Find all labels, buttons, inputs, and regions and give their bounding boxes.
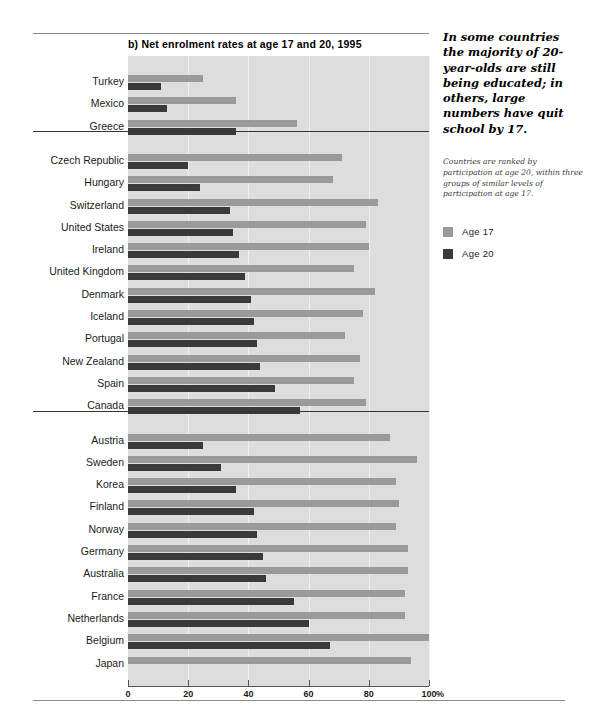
x-axis-unit-label: % <box>436 689 444 699</box>
bar-age-17 <box>128 120 297 127</box>
bar-row: Germany <box>33 542 429 564</box>
x-axis-line <box>128 686 429 687</box>
country-label: Finland <box>0 500 124 512</box>
legend-swatch-icon-age-20 <box>443 249 453 259</box>
bar-age-17 <box>128 478 396 485</box>
country-label: Czech Republic <box>0 154 124 166</box>
bar-age-20 <box>128 162 188 169</box>
bar-row: Australia <box>33 564 429 586</box>
bar-age-20 <box>128 575 266 582</box>
bar-age-17 <box>128 634 429 641</box>
gridline-100 <box>429 56 430 686</box>
bar-row: Canada <box>33 396 429 418</box>
bottom-rule <box>33 700 565 701</box>
country-label: Sweden <box>0 456 124 468</box>
bar-age-17 <box>128 545 408 552</box>
country-label: United Kingdom <box>0 265 124 277</box>
legend-label-age-20: Age 20 <box>462 248 494 259</box>
country-label: Iceland <box>0 310 124 322</box>
country-label: Norway <box>0 523 124 535</box>
country-label: Canada <box>0 399 124 411</box>
axis-tick-0 <box>128 680 129 686</box>
bar-age-17 <box>128 332 345 339</box>
bar-row: Korea <box>33 475 429 497</box>
bar-age-17 <box>128 176 333 183</box>
bar-age-17 <box>128 590 405 597</box>
country-label: Spain <box>0 377 124 389</box>
bar-age-17 <box>128 310 363 317</box>
country-label: Netherlands <box>0 612 124 624</box>
bar-age-17 <box>128 567 408 574</box>
group-separator-2 <box>33 411 429 412</box>
bar-row: Norway <box>33 520 429 542</box>
bar-age-20 <box>128 531 257 538</box>
bar-age-20 <box>128 105 167 112</box>
bar-row: Belgium <box>33 631 429 653</box>
country-label: United States <box>0 221 124 233</box>
bar-row: Czech Republic <box>33 151 429 173</box>
bar-row: Netherlands <box>33 609 429 631</box>
bar-row: Japan <box>33 654 429 676</box>
legend-label-age-17: Age 17 <box>462 226 494 237</box>
bar-age-20 <box>128 508 254 515</box>
sidebar-note: Countries are ranked by participation at… <box>443 157 583 200</box>
bar-row: Iceland <box>33 307 429 329</box>
country-label: Greece <box>0 120 124 132</box>
bar-row: Denmark <box>33 285 429 307</box>
bar-age-17 <box>128 399 366 406</box>
bar-age-17 <box>128 523 396 530</box>
axis-tick-label-100: 100 <box>421 689 436 699</box>
country-label: New Zealand <box>0 355 124 367</box>
bar-age-20 <box>128 273 245 280</box>
bar-row: Spain <box>33 374 429 396</box>
country-label: Belgium <box>0 634 124 646</box>
bar-row: United Kingdom <box>33 262 429 284</box>
bar-row: Switzerland <box>33 196 429 218</box>
chart-panel: b) Net enrolment rates at age 17 and 20,… <box>33 34 429 689</box>
bar-age-20 <box>128 598 294 605</box>
chart-title: b) Net enrolment rates at age 17 and 20,… <box>128 38 362 50</box>
bar-age-17 <box>128 612 405 619</box>
sidebar: In some countries the majority of 20-yea… <box>443 30 583 270</box>
bar-row: France <box>33 587 429 609</box>
legend-item-age-20: Age 20 <box>443 248 583 259</box>
chart-legend: Age 17 Age 20 <box>443 226 583 259</box>
bar-age-17 <box>128 288 375 295</box>
axis-tick-80 <box>369 680 370 686</box>
bar-age-17 <box>128 199 378 206</box>
bar-age-20 <box>128 296 251 303</box>
axis-tick-100 <box>429 680 430 686</box>
bar-age-20 <box>128 553 263 560</box>
bar-age-17 <box>128 75 203 82</box>
bar-age-20 <box>128 229 233 236</box>
axis-tick-label-80: 80 <box>364 689 374 699</box>
bar-age-17 <box>128 657 411 664</box>
country-label: Ireland <box>0 243 124 255</box>
bar-row: Ireland <box>33 240 429 262</box>
axis-tick-label-60: 60 <box>304 689 314 699</box>
bar-age-20 <box>128 318 254 325</box>
bar-row: Hungary <box>33 173 429 195</box>
bar-age-20 <box>128 184 200 191</box>
bar-age-20 <box>128 385 275 392</box>
bar-age-17 <box>128 221 366 228</box>
bar-age-17 <box>128 265 354 272</box>
bar-age-20 <box>128 207 230 214</box>
axis-tick-40 <box>248 680 249 686</box>
bar-row: Mexico <box>33 94 429 116</box>
bar-age-20 <box>128 83 161 90</box>
bar-age-20 <box>128 251 239 258</box>
bar-age-17 <box>128 434 390 441</box>
axis-tick-label-40: 40 <box>243 689 253 699</box>
bar-row: Turkey <box>33 72 429 94</box>
bar-row: Greece <box>33 117 429 139</box>
bar-age-20 <box>128 442 203 449</box>
bar-age-20 <box>128 464 221 471</box>
group-separator-1 <box>33 131 429 132</box>
country-label: Turkey <box>0 75 124 87</box>
bar-age-20 <box>128 486 236 493</box>
bar-row: Portugal <box>33 329 429 351</box>
country-label: Japan <box>0 657 124 669</box>
country-label: Portugal <box>0 332 124 344</box>
axis-tick-label-0: 0 <box>125 689 130 699</box>
